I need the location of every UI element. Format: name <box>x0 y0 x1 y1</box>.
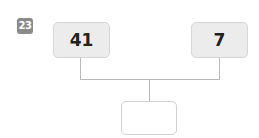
connector-center-vertical <box>149 79 150 101</box>
connector-right-vertical <box>219 58 220 80</box>
left-number-box: 41 <box>53 22 110 58</box>
right-number-box: 7 <box>191 22 248 58</box>
problem-number-badge: 23 <box>17 18 33 34</box>
connector-left-vertical <box>80 58 81 80</box>
connector-horizontal <box>80 79 220 80</box>
answer-box[interactable] <box>121 101 177 135</box>
left-number: 41 <box>70 30 94 50</box>
right-number: 7 <box>214 30 226 50</box>
